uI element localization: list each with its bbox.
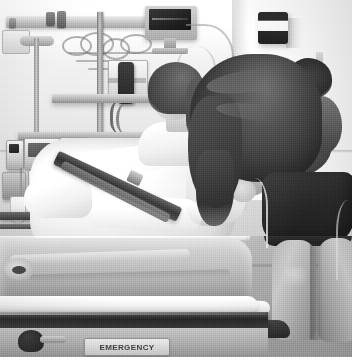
emergency-room-photograph: EMERGENCY xyxy=(0,0,352,357)
gurney-release-stem xyxy=(40,336,66,343)
gurney-frame-white xyxy=(0,296,258,312)
gas-outlet-icon xyxy=(46,12,55,26)
gurney-emergency-label: EMERGENCY xyxy=(84,338,170,356)
iv-tubing xyxy=(20,168,22,198)
mattress-grommet xyxy=(12,266,26,274)
print-margin-right xyxy=(352,0,358,363)
monitor-waveform-trace xyxy=(152,18,188,20)
pillow xyxy=(24,178,92,218)
gurney-mattress xyxy=(0,238,252,298)
glove-dispenser xyxy=(258,12,288,44)
pump-display xyxy=(9,144,19,153)
caregiver-knee-highlight xyxy=(282,266,310,288)
gas-outlet-icon xyxy=(9,18,16,28)
photograph-frame: EMERGENCY xyxy=(0,0,358,363)
emergency-label-text: EMERGENCY xyxy=(99,343,154,352)
gurney-frame-highlight xyxy=(0,312,266,315)
iv-line xyxy=(336,200,352,280)
headwall-rail xyxy=(6,16,146,28)
print-margin-bottom xyxy=(0,357,358,363)
leg-shadow xyxy=(310,244,322,340)
coiled-cord xyxy=(116,104,137,134)
gas-outlet-icon xyxy=(57,11,66,28)
dispenser-shadow xyxy=(286,18,302,48)
caregiver-hair xyxy=(196,150,234,226)
